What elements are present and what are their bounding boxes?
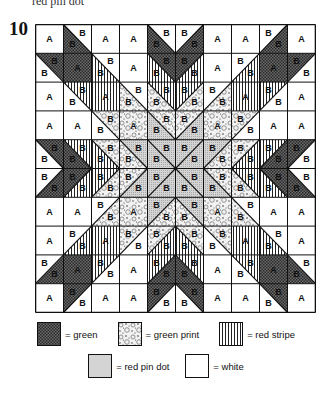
cell-label: A bbox=[130, 207, 137, 217]
cell-label: B bbox=[191, 97, 198, 107]
cell-label: B bbox=[135, 85, 142, 95]
quilt-cell bbox=[260, 140, 288, 169]
cell-label: B bbox=[125, 97, 132, 107]
cell-label: B bbox=[107, 143, 114, 153]
cell-label: B bbox=[209, 183, 216, 193]
cell-label: B bbox=[69, 97, 76, 107]
cell-label: B bbox=[191, 154, 198, 164]
quilt-cell bbox=[64, 284, 92, 313]
quilt-cell bbox=[64, 140, 92, 169]
cell-label: B bbox=[191, 125, 198, 135]
cell-label: B bbox=[153, 200, 160, 210]
cell-label: B bbox=[79, 28, 86, 38]
cell-label: B bbox=[247, 125, 254, 135]
cell-label: B bbox=[275, 172, 282, 182]
cell-label: B bbox=[209, 85, 216, 95]
cell-label: A bbox=[242, 293, 249, 303]
cell-label: B bbox=[191, 258, 198, 268]
cell-label: B bbox=[181, 85, 188, 95]
quilt-cell bbox=[92, 111, 120, 140]
cell-label: B bbox=[163, 28, 170, 38]
cell-label: B bbox=[51, 56, 58, 66]
cell-label: B bbox=[237, 114, 244, 124]
cell-label: B bbox=[191, 200, 198, 210]
quilt-cell bbox=[260, 169, 288, 198]
cell-label: B bbox=[275, 154, 282, 164]
cell-label: B bbox=[191, 287, 198, 297]
quilt-cell bbox=[204, 140, 232, 169]
cell-label: A bbox=[46, 236, 53, 246]
figure-number: 10 bbox=[9, 18, 28, 40]
cell-label: B bbox=[97, 200, 104, 210]
quilt-cell bbox=[64, 82, 92, 111]
top-caption: red pin dot bbox=[32, 0, 84, 9]
quilt-cell bbox=[120, 140, 148, 169]
quilt-cell bbox=[64, 169, 92, 198]
cell-label: B bbox=[181, 241, 188, 251]
cell-label: B bbox=[41, 154, 48, 164]
legend-row-1: = green = green print = red stripe bbox=[0, 322, 332, 346]
cell-label: B bbox=[191, 172, 198, 182]
cell-label: B bbox=[135, 241, 142, 251]
cell-label: B bbox=[153, 229, 160, 239]
cell-label: A bbox=[130, 265, 137, 275]
cell-label: B bbox=[79, 143, 86, 153]
quilt-cell bbox=[176, 25, 204, 54]
quilt-cell bbox=[148, 53, 176, 82]
cell-label: B bbox=[51, 143, 58, 153]
quilt-cell bbox=[288, 169, 316, 198]
cell-label: A bbox=[214, 121, 221, 131]
cell-label: A bbox=[102, 293, 109, 303]
cell-label: B bbox=[153, 154, 160, 164]
cell-label: B bbox=[153, 125, 160, 135]
cell-label: B bbox=[247, 200, 254, 210]
cell-label: B bbox=[107, 114, 114, 124]
cell-label: B bbox=[303, 68, 310, 78]
white-swatch-icon bbox=[185, 354, 209, 378]
cell-label: B bbox=[219, 154, 226, 164]
cell-label: B bbox=[135, 183, 142, 193]
cell-label: B bbox=[107, 269, 114, 279]
cell-label: B bbox=[219, 97, 226, 107]
cell-label: A bbox=[46, 121, 53, 131]
cell-label: B bbox=[107, 183, 114, 193]
quilt-cell bbox=[176, 169, 204, 198]
quilt-cell bbox=[232, 111, 260, 140]
quilt-cell bbox=[64, 226, 92, 255]
cell-label: A bbox=[298, 121, 305, 131]
quilt-cell bbox=[204, 169, 232, 198]
legend-item-red-pin-dot: = red pin dot bbox=[88, 354, 169, 378]
quilt-diagram: ABBAABBBBAABBABBABBABBBBABBABBABBABBBBBB… bbox=[35, 24, 316, 313]
legend-label-white: = white bbox=[213, 361, 243, 372]
quilt-cell bbox=[148, 82, 176, 111]
quilt-cell bbox=[148, 284, 176, 313]
cell-label: B bbox=[181, 298, 188, 308]
cell-label: B bbox=[191, 229, 198, 239]
cell-label: A bbox=[298, 293, 305, 303]
legend-label-green: = green bbox=[65, 329, 98, 340]
cell-label: A bbox=[270, 207, 277, 217]
cell-label: B bbox=[163, 143, 170, 153]
cell-label: B bbox=[275, 287, 282, 297]
quilt-cell bbox=[176, 111, 204, 140]
quilt-cell bbox=[120, 226, 148, 255]
quilt-cell bbox=[288, 140, 316, 169]
cell-label: B bbox=[247, 172, 254, 182]
cell-label: A bbox=[242, 92, 249, 102]
cell-label: B bbox=[181, 183, 188, 193]
cell-label: B bbox=[97, 258, 104, 268]
legend-label-red-stripe: = red stripe bbox=[247, 329, 295, 340]
cell-label: A bbox=[46, 92, 53, 102]
legend-label-red-pin-dot: = red pin dot bbox=[116, 361, 169, 372]
cell-label: B bbox=[163, 183, 170, 193]
cell-label: A bbox=[102, 236, 109, 246]
cell-label: B bbox=[293, 56, 300, 66]
cell-label: B bbox=[41, 172, 48, 182]
cell-label: B bbox=[153, 97, 160, 107]
cell-label: A bbox=[102, 34, 109, 44]
cell-label: A bbox=[130, 121, 137, 131]
quilt-cell bbox=[92, 53, 120, 82]
cell-label: A bbox=[74, 63, 81, 73]
cell-label: B bbox=[265, 241, 272, 251]
cell-label: B bbox=[69, 39, 76, 49]
